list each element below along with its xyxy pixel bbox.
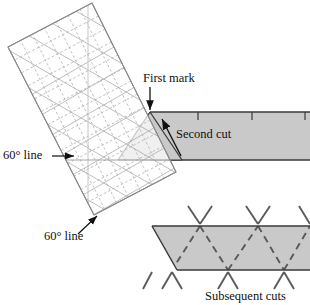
figure-cutting-60-degree-triangles: First mark Second cut 60° line 60° line …: [0, 0, 310, 305]
subsequent-cuts-label: Subsequent cuts: [205, 290, 286, 303]
first-mark-label: First mark: [143, 72, 195, 85]
fabric-strip-lower-fill: [152, 226, 310, 270]
sixty-line-left-label: 60° line: [3, 149, 42, 162]
sixty-line-bottom-label: 60° line: [44, 230, 83, 243]
diagram-canvas: [0, 0, 310, 305]
fabric-strip-lower: [143, 206, 310, 289]
second-cut-label: Second cut: [176, 128, 231, 141]
